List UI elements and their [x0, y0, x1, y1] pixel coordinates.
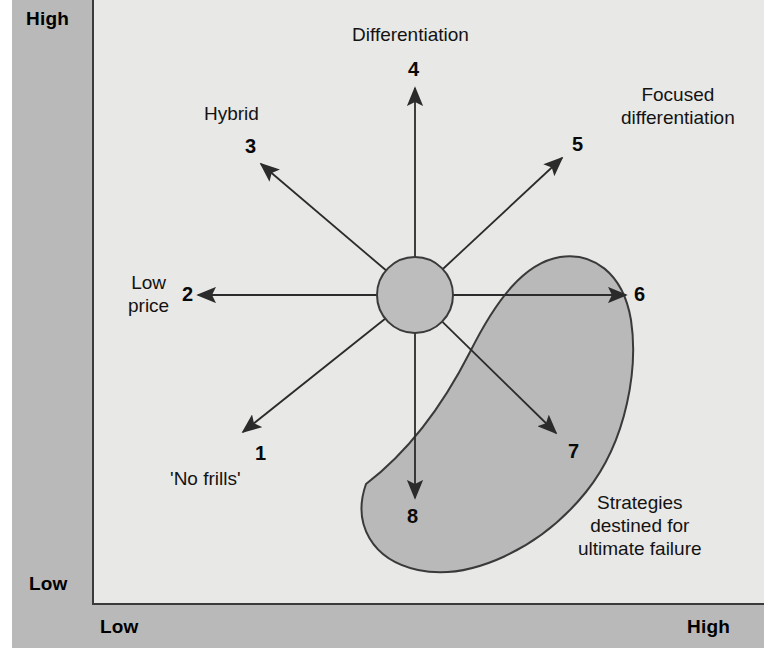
- spoke-label-line: 'No frills': [170, 468, 241, 491]
- y-axis-band: [12, 0, 92, 648]
- failure-zone-caption-line: destined for: [578, 515, 702, 538]
- spoke-label-no-frills: 'No frills': [170, 468, 241, 491]
- spoke-label-line: price: [128, 295, 169, 318]
- spoke-label-line: differentiation: [621, 107, 735, 130]
- spoke-label-low-price: Lowprice: [128, 272, 169, 318]
- spoke-number-1: 1: [255, 442, 266, 465]
- spoke-label-focused-differentiation: Focuseddifferentiation: [621, 84, 735, 130]
- spoke-number-4: 4: [408, 58, 419, 81]
- spoke-number-2: 2: [182, 283, 193, 306]
- failure-zone-caption-line: Strategies: [578, 492, 702, 515]
- spoke-label-line: Focused: [621, 84, 735, 107]
- failure-zone-caption-line: ultimate failure: [578, 538, 702, 561]
- spoke-label-hybrid: Hybrid: [204, 103, 259, 126]
- spoke-number-5: 5: [572, 133, 583, 156]
- spoke-number-7: 7: [568, 440, 579, 463]
- spoke-number-3: 3: [245, 135, 256, 158]
- y-axis-high-label: High: [26, 8, 69, 30]
- y-axis-low-label: Low: [29, 573, 68, 595]
- spoke-number-6: 6: [634, 283, 645, 306]
- spoke-label-line: Hybrid: [204, 103, 259, 126]
- spoke-number-8: 8: [407, 505, 418, 528]
- x-axis-low-label: Low: [100, 616, 139, 638]
- x-axis-high-label: High: [687, 616, 730, 638]
- spoke-label-line: Differentiation: [352, 24, 469, 47]
- diagram-canvas: High Low Low High 1'No frills'2Lowprice3…: [0, 0, 764, 669]
- failure-zone-caption: Strategiesdestined forultimate failure: [578, 492, 702, 560]
- spoke-label-differentiation: Differentiation: [352, 24, 469, 47]
- spoke-label-line: Low: [128, 272, 169, 295]
